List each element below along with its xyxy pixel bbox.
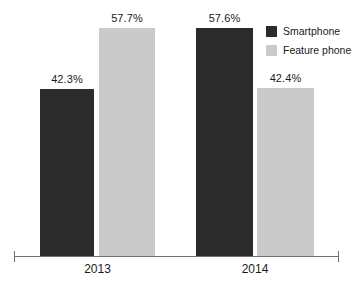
legend-item-smartphone[interactable]: Smartphone xyxy=(266,24,351,39)
bar-2014-smartphone[interactable] xyxy=(196,28,253,256)
bar-2013-smartphone[interactable] xyxy=(40,89,94,256)
bar-2013-feature[interactable] xyxy=(99,28,155,256)
x-axis-line xyxy=(14,256,339,257)
legend-item-feature-phone[interactable]: Feature phone xyxy=(266,43,351,58)
x-axis-label-2014: 2014 xyxy=(196,262,314,276)
x-axis-label-2013: 2013 xyxy=(40,262,155,276)
bar-chart: 42.3% 57.7% 57.6% 42.4% 2013 2014 Smartp… xyxy=(0,0,353,293)
bar-value-label-2013-smartphone: 42.3% xyxy=(40,73,94,85)
legend-label-smartphone: Smartphone xyxy=(283,26,340,37)
bar-value-label-2014-feature: 42.4% xyxy=(257,72,314,84)
bar-value-label-2014-smartphone: 57.6% xyxy=(196,12,253,24)
legend-swatch-icon-smartphone xyxy=(266,26,277,37)
x-axis-tick-right xyxy=(338,251,339,262)
x-axis-tick-left xyxy=(14,251,15,262)
bar-2014-feature[interactable] xyxy=(257,88,314,256)
legend-label-feature-phone: Feature phone xyxy=(283,45,351,56)
legend: Smartphone Feature phone xyxy=(266,24,351,62)
bar-value-label-2013-feature: 57.7% xyxy=(99,12,155,24)
legend-swatch-icon-feature-phone xyxy=(266,45,277,56)
